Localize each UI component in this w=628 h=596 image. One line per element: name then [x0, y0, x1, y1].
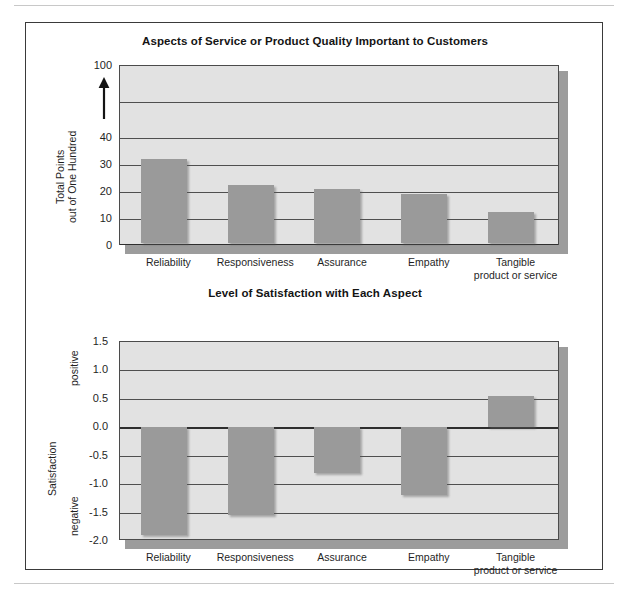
chart2-ytick-0-0: 0.0 [93, 420, 108, 432]
chart1-category-labels: Reliability Responsiveness Assurance Emp… [125, 256, 559, 281]
chart1-baseline-0 [120, 244, 558, 245]
chart1-bar-responsiveness [228, 185, 274, 243]
chart2-ytick-neg-1-0: -1.0 [89, 477, 108, 489]
chart2-category-tangible-line1: Tangible [496, 551, 535, 563]
chart1-ytick-100: 100 [94, 59, 112, 71]
chart1-title: Aspects of Service or Product Quality Im… [26, 35, 604, 47]
chart2-category-reliability: Reliability [125, 551, 212, 576]
chart1-bar-empathy [401, 194, 447, 243]
chart1-plot-shadow-right [559, 71, 568, 251]
chart-satisfaction-level: Level of Satisfaction with Each Aspect S… [26, 281, 604, 571]
chart2-bar-tangible [488, 396, 534, 427]
chart1-y-ticks: 100 40 30 20 10 0 [72, 65, 112, 245]
chart1-category-tangible-line2: product or service [472, 269, 559, 282]
chart1-ytick-0: 0 [106, 239, 112, 251]
chart2-category-responsiveness: Responsiveness [212, 551, 299, 576]
scan-rule-top [14, 5, 614, 6]
chart2-category-labels: Reliability Responsiveness Assurance Emp… [125, 551, 559, 576]
chart1-bar-tangible [488, 212, 534, 243]
chart2-ytick-1-5: 1.5 [93, 335, 108, 347]
chart2-plot-area [119, 341, 559, 540]
scan-rule-bottom [14, 583, 614, 584]
chart2-bar-assurance [314, 427, 360, 473]
chart1-category-assurance: Assurance [299, 256, 386, 281]
chart2-category-assurance: Assurance [299, 551, 386, 576]
chart1-category-tangible-line1: Tangible [496, 256, 535, 268]
chart-aspects-importance: Aspects of Service or Product Quality Im… [26, 23, 604, 293]
chart2-ytick-0-5: 0.5 [93, 392, 108, 404]
chart2-ytick-1-0: 1.0 [93, 363, 108, 375]
chart1-category-empathy: Empathy [385, 256, 472, 281]
chart1-category-reliability: Reliability [125, 256, 212, 281]
chart1-ytick-10: 10 [100, 212, 112, 224]
chart2-ytick-neg-2-0: -2.0 [89, 534, 108, 546]
chart1-ytick-30: 30 [100, 158, 112, 170]
chart1-category-responsiveness: Responsiveness [212, 256, 299, 281]
chart2-bar-reliability [141, 427, 187, 535]
chart2-title: Level of Satisfaction with Each Aspect [26, 287, 604, 299]
chart1-bar-reliability [141, 159, 187, 243]
chart2-bar-responsiveness [228, 427, 274, 515]
chart1-gridline-40 [120, 138, 558, 139]
chart1-plot-shadow-bottom [125, 245, 568, 254]
figure-frame: Aspects of Service or Product Quality Im… [25, 22, 603, 570]
chart2-plot-shadow-bottom [125, 540, 568, 549]
chart1-ytick-40: 40 [100, 131, 112, 143]
chart2-gridline-1-0 [120, 370, 558, 371]
chart1-ytick-20: 20 [100, 185, 112, 197]
chart1-gridline-upper [120, 102, 558, 103]
chart2-y-ticks: 1.5 1.0 0.5 0.0 -0.5 -1.0 -1.5 -2.0 [68, 341, 108, 540]
chart1-y-axis-title-line1: Total Points [54, 150, 66, 204]
chart2-category-empathy: Empathy [385, 551, 472, 576]
chart1-plot-area [119, 65, 559, 245]
chart2-ytick-neg-0-5: -0.5 [89, 449, 108, 461]
chart2-plot-shadow-right [559, 347, 568, 546]
chart2-category-tangible-line2: product or service [472, 564, 559, 577]
chart2-ytick-neg-1-5: -1.5 [89, 506, 108, 518]
chart2-bar-empathy [401, 427, 447, 495]
chart1-category-tangible: Tangible product or service [472, 256, 559, 281]
chart2-category-tangible: Tangible product or service [472, 551, 559, 576]
chart2-y-axis-title: Satisfaction [46, 442, 58, 496]
chart1-bar-assurance [314, 189, 360, 243]
